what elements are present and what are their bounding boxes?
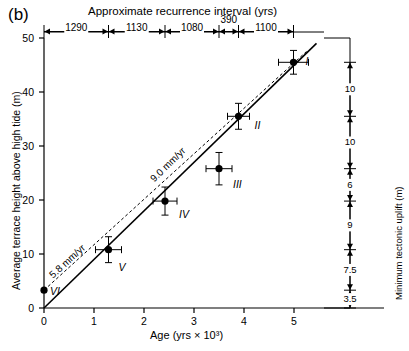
recurrence-arrow-left-1: [109, 29, 115, 35]
recurrence-arrow-right-0: [103, 29, 109, 35]
figure-panel: (b) Approximate recurrence interval (yrs…: [0, 0, 409, 351]
uplift-arrow-down-2: [347, 195, 353, 201]
y-tick-label-0: 0: [12, 303, 34, 314]
uplift-arrow-up-3: [347, 202, 353, 208]
recurrence-arrow-right-3: [233, 29, 239, 35]
data-point-V[interactable]: [105, 246, 112, 253]
recurrence-arrow-right-2: [213, 29, 219, 35]
x-tick-label-0: 0: [35, 316, 53, 327]
recurrence-interval-1100: 1100: [250, 23, 282, 33]
recurrence-arrow-right-1: [159, 29, 165, 35]
uplift-segment-1: 10: [339, 137, 361, 147]
x-tick-label-1: 1: [85, 316, 103, 327]
data-point-label-III: III: [233, 179, 242, 190]
recurrence-arrow-left-0: [45, 29, 51, 35]
uplift-arrow-down-1: [347, 163, 353, 169]
y-tick-label-40: 40: [12, 87, 34, 98]
data-point-I[interactable]: [290, 59, 297, 66]
recurrence-interval-1080: 1080: [176, 23, 208, 33]
data-point-label-V: V: [119, 262, 126, 273]
uplift-segment-3: 9: [339, 220, 361, 230]
uplift-arrow-down-4: [347, 284, 353, 290]
recurrence-interval-1130: 1130: [121, 23, 153, 33]
data-point-II[interactable]: [235, 113, 242, 120]
uplift-arrow-up-2: [347, 169, 353, 175]
data-point-IV[interactable]: [161, 197, 168, 204]
recurrence-arrow-left-2: [166, 29, 172, 35]
y-tick-label-20: 20: [12, 195, 34, 206]
trend-line-9-0-mm-yr: [44, 43, 317, 308]
uplift-arrow-down-0: [347, 110, 353, 116]
data-point-III[interactable]: [215, 165, 222, 172]
recurrence-arrow-right-4: [288, 29, 294, 35]
uplift-arrow-up-1: [347, 117, 353, 123]
trend-line-5-8-mm-yr: [44, 52, 307, 291]
x-tick-label-2: 2: [135, 316, 153, 327]
x-tick-label-4: 4: [235, 316, 253, 327]
recurrence-arrow-left-4: [239, 29, 245, 35]
data-point-label-I: I: [306, 56, 309, 67]
y-tick-label-10: 10: [12, 249, 34, 260]
uplift-arrow-down-3: [347, 244, 353, 250]
recurrence-interval-390: 390: [213, 15, 245, 25]
uplift-segment-0: 10: [339, 84, 361, 94]
recurrence-interval-1290: 1290: [60, 23, 92, 33]
data-point-label-II: II: [255, 120, 261, 131]
uplift-arrow-up-4: [347, 250, 353, 256]
uplift-segment-5: 3.5: [339, 294, 361, 304]
data-point-label-IV: IV: [179, 209, 189, 220]
data-point-label-VI: VI: [50, 286, 60, 297]
y-tick-label-30: 30: [12, 141, 34, 152]
x-tick-label-3: 3: [185, 316, 203, 327]
data-point-VI[interactable]: [40, 287, 47, 294]
uplift-segment-4: 7.5: [339, 265, 361, 275]
recurrence-arrow-left-3: [220, 29, 226, 35]
uplift-arrow-up-0: [347, 63, 353, 69]
y-tick-label-50: 50: [12, 33, 34, 44]
uplift-segment-2: 6: [339, 180, 361, 190]
x-tick-label-5: 5: [285, 316, 303, 327]
